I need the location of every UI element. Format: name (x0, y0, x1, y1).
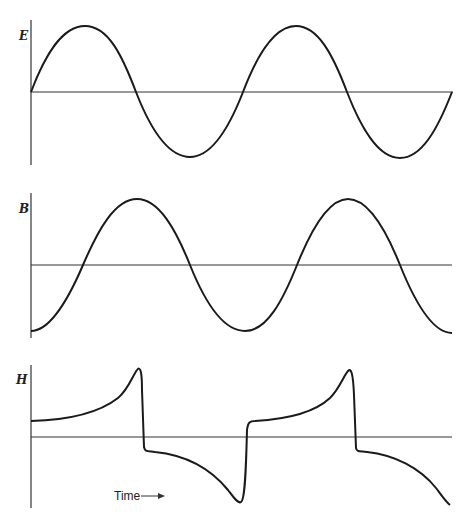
b-curve (31, 199, 452, 333)
time-axis-label: Time (114, 489, 140, 503)
h-label: H (16, 373, 27, 387)
panel-h (31, 365, 452, 508)
b-label: B (19, 202, 29, 216)
panel-b (31, 193, 452, 338)
e-label: E (19, 29, 28, 43)
panel-e (31, 20, 453, 165)
time-arrow-head (158, 493, 165, 499)
waveform-diagram (0, 0, 469, 524)
